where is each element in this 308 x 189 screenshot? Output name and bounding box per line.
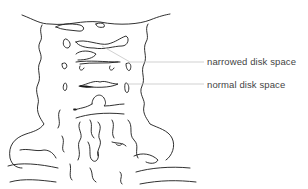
rib-left-bottom bbox=[10, 180, 56, 182]
narrowed-disk-space bbox=[76, 51, 96, 60]
lower-structure-7 bbox=[112, 142, 126, 146]
lower-structure-1 bbox=[58, 110, 60, 128]
facet-right-2 bbox=[126, 63, 131, 71]
rib-right-bottom bbox=[140, 181, 196, 184]
lower-structure-2 bbox=[78, 122, 81, 160]
spine-illustration bbox=[0, 0, 308, 189]
neck-right-outline bbox=[141, 24, 174, 160]
vertebra-c2 bbox=[56, 24, 84, 31]
vertebra-c4-tabs bbox=[79, 66, 114, 70]
annotation-normal-disk-space: normal disk space bbox=[207, 79, 285, 90]
lower-structure-4 bbox=[98, 122, 101, 156]
narrowed-disk-line bbox=[76, 61, 120, 62]
facet-left-3 bbox=[63, 83, 67, 91]
narrowed-disk-line-2 bbox=[80, 62, 118, 64]
facet-left-2 bbox=[62, 63, 67, 69]
leader-line-narrowed bbox=[102, 46, 204, 62]
lower-structure-8 bbox=[128, 120, 138, 158]
facet-left-upper bbox=[63, 39, 70, 48]
rib-left-upper bbox=[20, 149, 56, 158]
vertebra-c2-right bbox=[96, 23, 104, 27]
neck-left-outline bbox=[10, 25, 44, 168]
lower-structure-11 bbox=[90, 168, 96, 182]
rib-right-lower bbox=[136, 167, 190, 172]
lower-structure-10 bbox=[70, 164, 72, 180]
rib-right-upper bbox=[134, 154, 158, 163]
vertebra-c6 bbox=[74, 95, 124, 118]
lower-structure-9 bbox=[62, 136, 64, 152]
vertebra-c3 bbox=[76, 36, 128, 49]
lower-structure-6 bbox=[112, 120, 114, 138]
lower-structure-12 bbox=[120, 172, 122, 184]
lower-structure-5 bbox=[88, 142, 99, 161]
jaw-outline bbox=[22, 14, 170, 24]
lower-structure-3 bbox=[90, 120, 94, 138]
annotation-narrowed-disk-space: narrowed disk space bbox=[207, 56, 296, 67]
